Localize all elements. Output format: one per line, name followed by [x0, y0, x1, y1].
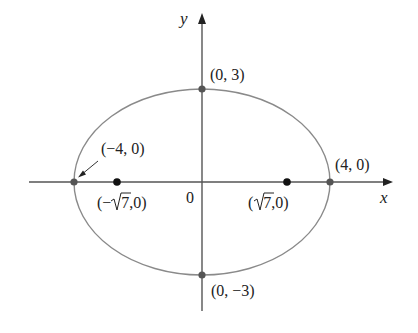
x-axis-arrow-icon [383, 178, 393, 186]
bottom-covertex-point [198, 271, 205, 278]
left-focus-label-radicand: 7 [121, 194, 129, 211]
left-vertex-label: (−4, 0) [101, 140, 145, 158]
right-vertex-label: (4, 0) [335, 156, 370, 174]
bottom-covertex-label: (0, −3) [211, 282, 255, 300]
right-focus-label-suffix: ,0) [271, 194, 288, 212]
left-focus-label: (−7,0) [97, 193, 147, 212]
svg-text:(−7,0): (−7,0) [97, 194, 147, 212]
y-axis-label: y [178, 9, 188, 28]
diagram-canvas: y x 0 (0, 3) (0, −3) (4, 0) (−4, 0) (−7,… [0, 0, 418, 333]
x-axis-label: x [379, 188, 388, 207]
left-vertex-point [70, 178, 77, 185]
right-focus-label-radicand: 7 [263, 194, 271, 211]
ellipse-diagram: y x 0 (0, 3) (0, −3) (4, 0) (−4, 0) (−7,… [0, 0, 418, 333]
origin-label: 0 [186, 189, 194, 206]
right-focus-label: (7,0) [248, 193, 289, 212]
top-covertex-label: (0, 3) [210, 66, 245, 84]
y-axis [198, 13, 206, 311]
left-focus-point [113, 178, 121, 186]
right-focus-point [283, 178, 291, 186]
svg-text:(7,0): (7,0) [248, 194, 289, 212]
left-vertex-leader-arrow [78, 161, 98, 178]
left-focus-label-prefix: (− [97, 194, 111, 212]
right-focus-label-prefix: ( [248, 194, 253, 212]
y-axis-arrow-icon [198, 13, 206, 24]
x-axis [29, 178, 393, 186]
top-covertex-point [198, 85, 205, 92]
right-vertex-point [326, 178, 333, 185]
left-focus-label-suffix: ,0) [129, 194, 146, 212]
